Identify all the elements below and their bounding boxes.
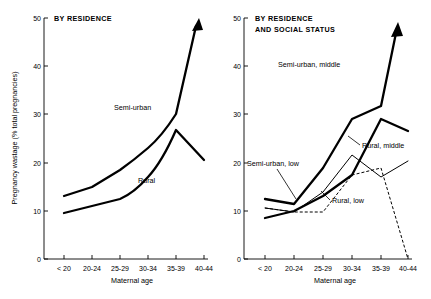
- right-x-axis-title: Maternal age: [314, 276, 356, 285]
- right-label-rural-low: Rural, low: [332, 196, 365, 205]
- right-series-semi-urban-middle-arrowhead: [391, 22, 403, 37]
- left-label-semi-urban: Semi-urban: [114, 103, 151, 112]
- right-x-ticks: [265, 255, 408, 259]
- right-xtick-30-34: 30-34: [343, 265, 361, 272]
- right-xtick-25-29: 25-29: [314, 265, 332, 272]
- left-panel-title: BY RESIDENCE: [54, 14, 112, 23]
- left-ytick-50: 50: [33, 15, 41, 22]
- right-label-semi-urban-middle: Semi-urban, middle: [278, 60, 340, 69]
- right-xtick-40-44: 40-44: [399, 265, 417, 272]
- chart-panel-by-residence: 50 40 30 20 10 0 < 20 20-24 25-29 30-34 …: [0, 0, 215, 299]
- right-panel-title-line2: AND SOCIAL STATUS: [255, 25, 335, 34]
- right-leader-rural-middle: [348, 136, 360, 145]
- left-x-axis-title: Maternal age: [111, 276, 153, 285]
- right-ytick-0: 0: [237, 256, 241, 263]
- left-xtick-25-29: 25-29: [111, 265, 129, 272]
- right-ytick-20: 20: [233, 160, 241, 167]
- right-panel-title-line1: BY RESIDENCE: [255, 14, 313, 23]
- right-ytick-30: 30: [233, 111, 241, 118]
- left-ytick-30: 30: [33, 111, 41, 118]
- right-ytick-40: 40: [233, 63, 241, 70]
- chart-panel-by-residence-and-social-status: 50 40 30 20 10 0 < 20 20-24 25-29 30-34 …: [215, 0, 430, 299]
- left-xtick-30-34: 30-34: [139, 265, 157, 272]
- left-xtick-40-44: 40-44: [195, 265, 213, 272]
- left-y-axis-title: Pregnancy wastage (% total pregnancies): [10, 71, 19, 204]
- right-leader-semi-urban-low: [277, 169, 296, 199]
- left-xtick-35-39: 35-39: [167, 265, 185, 272]
- right-xtick-under20: < 20: [258, 265, 272, 272]
- right-y-ticks: [244, 18, 248, 259]
- left-label-rural: Rural: [138, 176, 156, 185]
- left-ytick-20: 20: [33, 160, 41, 167]
- right-ytick-10: 10: [233, 208, 241, 215]
- left-xtick-20-24: 20-24: [83, 265, 101, 272]
- right-label-rural-middle: Rural, middle: [362, 141, 404, 150]
- left-ytick-0: 0: [37, 256, 41, 263]
- right-label-semi-urban-low: Semi-urban, low: [247, 159, 300, 168]
- right-series-semi-urban-middle: [265, 33, 396, 204]
- left-series-semi-urban-arrowhead: [192, 18, 203, 31]
- right-xtick-35-39: 35-39: [372, 265, 390, 272]
- left-ytick-10: 10: [33, 208, 41, 215]
- left-series-rural: [64, 130, 204, 213]
- right-ytick-50: 50: [233, 15, 241, 22]
- left-xtick-under20: < 20: [57, 265, 71, 272]
- right-xtick-20-24: 20-24: [285, 265, 303, 272]
- left-x-ticks: [64, 255, 204, 259]
- left-ytick-40: 40: [33, 63, 41, 70]
- figure-two-panel-line-charts: 50 40 30 20 10 0 < 20 20-24 25-29 30-34 …: [0, 0, 431, 299]
- left-y-ticks: [44, 18, 48, 259]
